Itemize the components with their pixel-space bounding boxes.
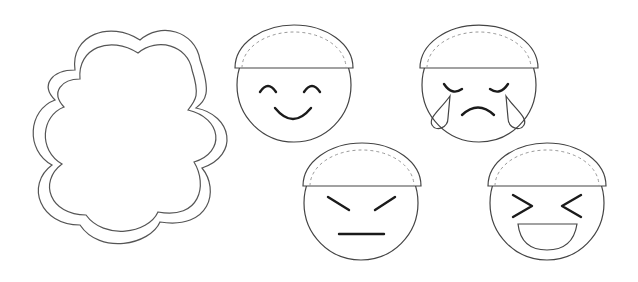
right-eye-icon bbox=[562, 195, 581, 217]
mouth-icon bbox=[275, 108, 311, 119]
right-eye-icon bbox=[490, 84, 508, 92]
left-brow-icon bbox=[328, 197, 349, 210]
mouth-icon bbox=[462, 108, 494, 116]
left-eye-icon bbox=[260, 86, 276, 92]
face-happy bbox=[235, 25, 353, 142]
face-laughing bbox=[488, 143, 606, 260]
worksheet-canvas bbox=[0, 0, 638, 282]
right-brow-icon bbox=[375, 197, 395, 210]
right-tear-icon bbox=[506, 96, 525, 129]
cloud-frame bbox=[33, 30, 227, 243]
mouth-icon bbox=[518, 224, 577, 250]
left-eye-icon bbox=[513, 195, 532, 217]
left-tear-icon bbox=[431, 96, 450, 129]
face-angry bbox=[303, 143, 421, 260]
drawing bbox=[0, 0, 638, 282]
cloud-inner-outline bbox=[45, 45, 216, 232]
face-crying bbox=[420, 25, 538, 142]
left-eye-icon bbox=[444, 84, 462, 92]
cloud-outer-outline bbox=[33, 30, 227, 243]
right-eye-icon bbox=[304, 86, 320, 92]
